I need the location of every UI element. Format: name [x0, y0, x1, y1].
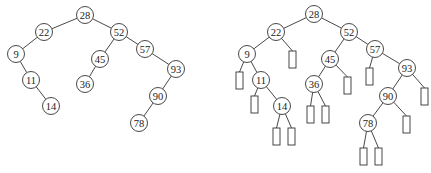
external-node — [421, 88, 428, 105]
node-label: 9 — [244, 49, 249, 60]
node-label: 45 — [95, 54, 106, 65]
node-label: 11 — [256, 75, 266, 86]
tree-edge — [373, 103, 383, 116]
external-node — [366, 68, 373, 85]
external-node — [273, 128, 280, 145]
tree-edge — [393, 75, 402, 89]
tree-node-9: 9 — [8, 46, 25, 63]
tree-edge — [152, 54, 169, 65]
tree-edge — [356, 37, 368, 45]
tree-node-78: 78 — [360, 115, 377, 132]
tree-edge — [144, 103, 153, 116]
right-extended-binary-tree: 28225294557113693149078 — [236, 6, 428, 166]
external-edge — [285, 114, 291, 128]
tree-node-14: 14 — [43, 98, 60, 115]
tree-edge — [93, 19, 112, 28]
tree-edge — [52, 18, 77, 28]
external-node — [375, 148, 382, 165]
tree-node-52: 52 — [341, 24, 358, 41]
external-node — [403, 116, 410, 133]
tree-edge — [163, 76, 172, 89]
node-label: 57 — [370, 44, 381, 55]
tree-edge — [382, 53, 399, 63]
external-edge — [413, 74, 425, 88]
node-label: 78 — [363, 118, 374, 129]
node-label: 22 — [271, 27, 282, 38]
external-node — [322, 106, 329, 123]
tree-node-45: 45 — [322, 51, 339, 68]
node-label: 52 — [344, 27, 355, 38]
external-node — [288, 128, 295, 145]
tree-node-22: 22 — [268, 24, 285, 41]
external-node — [289, 51, 296, 68]
external-edge — [371, 131, 378, 148]
left-binary-search-tree: 28225295745931136901478 — [8, 7, 185, 132]
tree-node-36: 36 — [77, 76, 94, 93]
node-label: 78 — [134, 118, 145, 129]
tree-edge — [126, 37, 138, 45]
external-edge — [318, 92, 326, 106]
tree-node-14: 14 — [274, 98, 291, 115]
tree-node-90: 90 — [380, 88, 397, 105]
tree-edge — [266, 87, 276, 100]
tree-node-57: 57 — [367, 41, 384, 58]
tree-node-9: 9 — [239, 46, 256, 63]
tree-edge — [335, 39, 344, 52]
tree-edge — [36, 87, 46, 100]
external-edge — [282, 38, 293, 51]
tree-node-11: 11 — [253, 72, 270, 89]
external-edge — [311, 92, 313, 106]
node-label: 93 — [402, 63, 413, 74]
node-label: 45 — [325, 54, 336, 65]
tree-node-22: 22 — [36, 24, 53, 41]
node-label: 9 — [13, 49, 18, 60]
node-label: 14 — [46, 101, 57, 112]
external-edge — [364, 131, 367, 148]
tree-edge — [89, 66, 95, 76]
node-label: 14 — [277, 101, 288, 112]
node-label: 90 — [153, 91, 164, 102]
tree-node-36: 36 — [306, 76, 323, 93]
tree-node-11: 11 — [23, 72, 40, 89]
tree-edge — [284, 18, 307, 29]
node-label: 28 — [309, 9, 320, 20]
tree-edge — [20, 61, 27, 72]
external-node — [307, 106, 314, 123]
tree-diagram: 28225295745931136901478 2822529455711369… — [0, 0, 431, 173]
tree-edge — [23, 37, 38, 48]
tree-node-93: 93 — [399, 60, 416, 77]
tree-edge — [322, 18, 342, 28]
tree-node-78: 78 — [131, 115, 148, 132]
node-label: 36 — [309, 79, 320, 90]
external-edge — [370, 57, 373, 68]
external-node — [344, 77, 351, 94]
external-edge — [277, 114, 280, 128]
node-label: 28 — [80, 10, 91, 21]
external-edge — [255, 88, 258, 96]
tree-edge — [251, 61, 257, 72]
tree-edge — [254, 37, 269, 49]
tree-node-28: 28 — [77, 7, 94, 24]
external-edge — [336, 65, 348, 77]
tree-node-90: 90 — [150, 88, 167, 105]
external-node — [236, 72, 243, 89]
tree-node-52: 52 — [111, 24, 128, 41]
node-label: 90 — [383, 91, 394, 102]
external-node — [251, 96, 258, 113]
tree-node-45: 45 — [92, 51, 109, 68]
node-label: 52 — [114, 27, 125, 38]
external-edge — [394, 102, 407, 116]
node-label: 36 — [80, 79, 91, 90]
tree-node-28: 28 — [306, 6, 323, 23]
node-label: 22 — [39, 27, 50, 38]
node-label: 57 — [140, 44, 151, 55]
external-edge — [240, 62, 244, 72]
tree-edge — [105, 39, 114, 52]
tree-node-57: 57 — [137, 41, 154, 58]
tree-edge — [319, 66, 326, 77]
node-label: 93 — [171, 64, 182, 75]
external-node — [360, 148, 367, 165]
node-label: 11 — [26, 75, 36, 86]
tree-node-93: 93 — [168, 61, 185, 78]
